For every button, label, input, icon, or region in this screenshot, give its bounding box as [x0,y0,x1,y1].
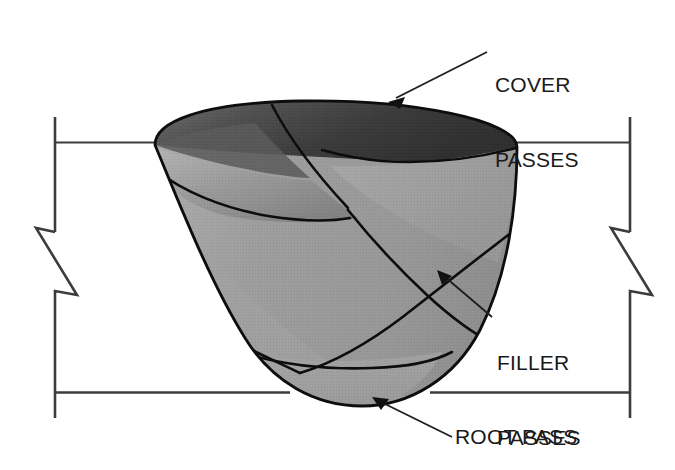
cover-passes-label: COVER PASSES [495,22,579,222]
cover-passes-leader-line [396,52,487,98]
break-symbol-left-icon [36,228,77,418]
diagram-canvas: COVER PASSES FILLER PASSES ROOT PASS [0,0,675,470]
root-pass-leader-line [381,402,452,437]
filler-passes-label-line1: FILLER [497,350,581,375]
break-symbol-right-icon [611,228,652,418]
weld-bead [140,95,540,415]
cover-passes-label-line1: COVER [495,72,579,97]
root-pass-label: ROOT PASS [455,424,577,449]
cover-passes-label-line2: PASSES [495,147,579,172]
